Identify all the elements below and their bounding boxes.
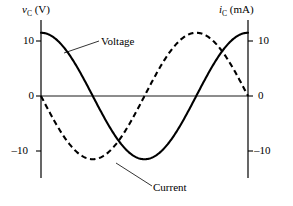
- left-tick-label-0: 0: [8, 90, 34, 101]
- right-axis-unit: (mA): [230, 3, 254, 15]
- current-leader-line: [116, 163, 152, 186]
- current-annotation-label: Current: [153, 182, 187, 193]
- left-tick-label-minus10: –10: [2, 145, 28, 156]
- voltage-annotation-label: Voltage: [101, 36, 134, 47]
- capacitor-waveform-figure: vC (V) iC (mA) 10 0 –10 10 0 –10 Voltage…: [0, 0, 293, 206]
- right-tick-label-minus10: –10: [254, 145, 280, 156]
- left-axis-title: vC (V): [22, 4, 50, 18]
- left-axis-subscript: C: [27, 9, 32, 18]
- left-tick-label-10: 10: [8, 35, 34, 46]
- right-axis-title: iC (mA): [219, 4, 254, 18]
- voltage-leader-line: [64, 41, 99, 53]
- right-axis-subscript: C: [222, 9, 227, 18]
- plot-canvas: [0, 0, 293, 206]
- left-axis-unit: (V): [35, 3, 50, 15]
- right-tick-label-10: 10: [258, 35, 284, 46]
- right-tick-label-0: 0: [258, 90, 284, 101]
